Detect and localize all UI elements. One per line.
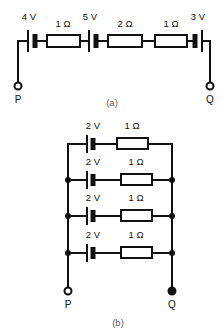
circuit-a-terminal-p-marker[interactable] [15, 83, 22, 90]
circuit-a-caption: (a) [106, 97, 118, 108]
branch-3-battery-label: 2 V [86, 192, 101, 203]
resistor-body [47, 35, 80, 47]
circuit-b-terminal-p-label: P [65, 299, 72, 310]
branch-4-resistor-1ohm [121, 247, 152, 258]
circuit-b-branch-4: 2 V 1 Ω [65, 229, 175, 262]
circuit-a-battery-4v-label: 4 V [22, 11, 37, 22]
circuit-a-resistor-2ohm [108, 35, 155, 47]
branch-2-battery-label: 2 V [86, 156, 101, 167]
circuit-a-battery-3v [195, 30, 210, 52]
circuit-a-battery-3v-label: 3 V [191, 11, 206, 22]
circuit-a-terminal-p-label: P [15, 94, 22, 105]
circuit-a-battery-5v-label: 5 V [83, 11, 98, 22]
circuit-a-group: 4 V 1 Ω 5 V 2 Ω [15, 11, 215, 108]
branch-3-resistor-1ohm [121, 210, 152, 221]
branch-2-battery-2v [87, 171, 93, 189]
resistor-body [121, 210, 152, 221]
branch-1-resistor-label: 1 Ω [124, 120, 139, 131]
branch-4-resistor-label: 1 Ω [128, 229, 143, 240]
branch-3-left-node [65, 213, 71, 219]
circuit-b-group: 2 V 1 Ω 2 V 1 Ω [65, 120, 177, 328]
branch-3-battery-2v [87, 207, 93, 225]
circuit-a-resistor-1ohm-second-label: 1 Ω [163, 18, 178, 29]
resistor-body [121, 174, 152, 185]
branch-1-resistor-1ohm [117, 138, 148, 149]
circuit-a-resistor-1ohm-first [47, 35, 88, 47]
branch-3-resistor-label: 1 Ω [128, 192, 143, 203]
resistor-body [155, 35, 187, 47]
circuit-b-branch-1: 2 V 1 Ω [68, 120, 172, 153]
circuit-b-caption: (b) [112, 317, 124, 328]
branch-1-battery-2v [87, 135, 93, 153]
resistor-body [108, 35, 142, 47]
circuit-a-terminal-q-label: Q [206, 94, 214, 105]
circuit-a-terminal-q-marker[interactable] [207, 83, 214, 90]
branch-2-right-node [169, 177, 175, 183]
circuit-b-terminal-q-label: Q [168, 299, 176, 310]
branch-2-resistor-1ohm [121, 174, 152, 185]
circuit-a-resistor-2ohm-label: 2 Ω [117, 18, 132, 29]
circuit-b-terminal-q-marker[interactable] [169, 288, 176, 295]
circuit-a-resistor-1ohm-first-label: 1 Ω [55, 18, 70, 29]
branch-4-battery-2v [87, 244, 93, 262]
circuit-diagram-canvas: 4 V 1 Ω 5 V 2 Ω [0, 0, 223, 334]
circuit-a-battery-4v [28, 30, 47, 52]
branch-2-resistor-label: 1 Ω [128, 156, 143, 167]
branch-4-battery-label: 2 V [86, 229, 101, 240]
branch-1-battery-label: 2 V [86, 120, 101, 131]
circuit-a-battery-5v [89, 30, 108, 52]
circuit-b-terminal-p-marker[interactable] [65, 288, 72, 295]
circuit-b-branch-3: 2 V 1 Ω [65, 192, 175, 225]
resistor-body [121, 247, 152, 258]
circuit-b-branch-2: 2 V 1 Ω [65, 156, 175, 189]
circuit-a-resistor-1ohm-second [155, 35, 194, 47]
branch-2-left-node [65, 177, 71, 183]
figure-root: 4 V 1 Ω 5 V 2 Ω [0, 0, 223, 334]
resistor-body [117, 138, 148, 149]
branch-3-right-node [169, 213, 175, 219]
